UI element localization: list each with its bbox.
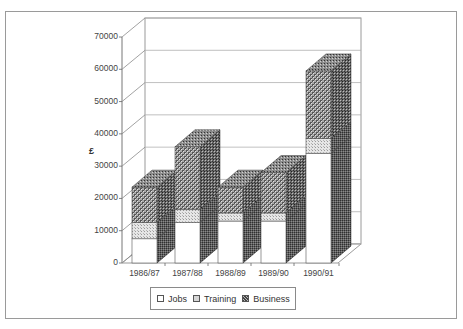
y-tick-label: 10000 <box>78 225 118 235</box>
bar-1988/89 <box>218 170 263 263</box>
bar-1990/91 <box>306 54 351 263</box>
chart-legend: Jobs Training Business <box>150 287 296 310</box>
y-tick-label: 60000 <box>78 63 118 73</box>
y-tick-label: 30000 <box>78 160 118 170</box>
bar-segment-business <box>218 187 243 213</box>
bar-1989/90 <box>261 156 306 263</box>
chart-canvas <box>0 0 463 329</box>
bar-segment-jobs <box>306 153 331 263</box>
bar-segment-jobs <box>175 223 200 263</box>
bar-segment-business <box>306 71 331 139</box>
bar-segment-jobs <box>218 221 243 263</box>
bar-1987/88 <box>175 130 220 263</box>
bar-segment-business <box>132 187 157 223</box>
bar-segment-jobs <box>261 221 286 263</box>
x-category-label: 1987/88 <box>166 268 210 278</box>
bar-segment-training <box>132 223 157 239</box>
x-category-label: 1990/91 <box>297 268 341 278</box>
legend-label-jobs: Jobs <box>168 294 187 304</box>
legend-item-jobs: Jobs <box>157 294 187 304</box>
bar-segment-training <box>175 210 200 223</box>
legend-item-training: Training <box>193 294 236 304</box>
y-tick-label: 0 <box>78 257 118 267</box>
y-axis-label: £ <box>89 146 94 156</box>
x-category-label: 1986/87 <box>123 268 167 278</box>
legend-item-business: Business <box>242 294 290 304</box>
x-category-label: 1989/90 <box>252 268 296 278</box>
y-tick-label: 20000 <box>78 192 118 202</box>
legend-swatch-business <box>242 295 249 302</box>
y-tick-label: 40000 <box>78 128 118 138</box>
legend-swatch-jobs <box>157 295 164 302</box>
bar-1986/87 <box>132 170 177 263</box>
legend-label-training: Training <box>204 294 236 304</box>
y-tick-label: 50000 <box>78 96 118 106</box>
bar-segment-business <box>261 173 286 213</box>
bar-segment-training <box>261 213 286 221</box>
bar-segment-jobs <box>132 239 157 263</box>
bar-segment-training <box>306 139 331 154</box>
legend-swatch-training <box>193 295 200 302</box>
bar-segment-business <box>175 147 200 210</box>
bar-segment-training <box>218 213 243 221</box>
legend-label-business: Business <box>253 294 290 304</box>
x-category-label: 1988/89 <box>209 268 253 278</box>
y-tick-label: 70000 <box>78 31 118 41</box>
